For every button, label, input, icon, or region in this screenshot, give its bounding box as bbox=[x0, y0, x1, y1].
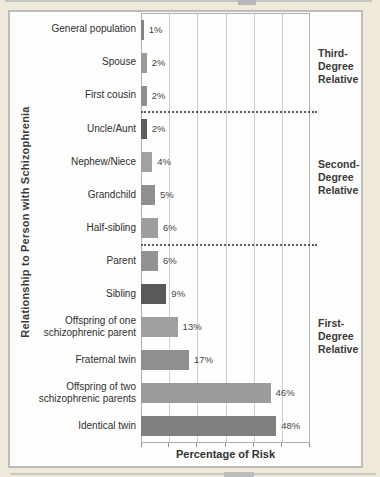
category-label: Identical twin bbox=[4, 410, 136, 442]
scan-artifact-top-line bbox=[5, 0, 372, 2]
scan-artifact-top-tab bbox=[238, 0, 256, 5]
bar-value-label: 13% bbox=[183, 321, 202, 332]
gridline bbox=[282, 14, 283, 442]
bar-value-label: 2% bbox=[152, 123, 166, 134]
bar-value-label: 9% bbox=[171, 288, 185, 299]
bar-value-label: 2% bbox=[152, 57, 166, 68]
bar bbox=[141, 284, 166, 304]
bar bbox=[141, 20, 144, 40]
scan-artifact-bottom-line bbox=[10, 473, 376, 475]
bar bbox=[141, 350, 189, 370]
axis-tick bbox=[309, 443, 310, 447]
bar-value-label: 46% bbox=[276, 387, 295, 398]
bar bbox=[141, 152, 152, 172]
bar bbox=[141, 185, 155, 205]
bar-value-label: 2% bbox=[152, 90, 166, 101]
category-label: Fraternal twin bbox=[4, 344, 136, 376]
axis-tick bbox=[141, 443, 142, 447]
axis-tick bbox=[281, 443, 282, 447]
bar-value-label: 6% bbox=[163, 255, 177, 266]
bar-value-label: 17% bbox=[194, 354, 213, 365]
degree-group-label: Third- Degree Relative bbox=[318, 47, 368, 86]
bar bbox=[141, 53, 147, 73]
axis-tick bbox=[168, 443, 169, 447]
scan-artifact-bottom-tab bbox=[224, 472, 254, 477]
bar bbox=[141, 317, 178, 337]
gridline bbox=[226, 14, 227, 442]
y-axis-title: Relationship to Person with Schizophreni… bbox=[19, 106, 31, 337]
bar bbox=[141, 218, 158, 238]
bar-value-label: 5% bbox=[160, 189, 174, 200]
bar bbox=[141, 416, 276, 436]
bar bbox=[141, 119, 147, 139]
bar-value-label: 4% bbox=[157, 156, 171, 167]
axis-tick bbox=[196, 443, 197, 447]
bar-value-label: 1% bbox=[149, 24, 163, 35]
degree-separator-dotted-line bbox=[141, 244, 317, 246]
axis-tick bbox=[253, 443, 254, 447]
bar bbox=[141, 383, 271, 403]
degree-group-label: First- Degree Relative bbox=[318, 317, 368, 356]
degree-separator-dotted-line bbox=[141, 111, 317, 113]
category-label: Offspring of two schizophrenic parents bbox=[4, 377, 136, 409]
bar bbox=[141, 86, 147, 106]
bar bbox=[141, 251, 158, 271]
category-label: Spouse bbox=[4, 47, 136, 79]
axis-tick bbox=[225, 443, 226, 447]
x-axis-title: Percentage of Risk bbox=[141, 448, 310, 460]
degree-group-label: Second- Degree Relative bbox=[318, 158, 368, 197]
category-label: General population bbox=[4, 14, 136, 46]
gridline bbox=[197, 14, 198, 442]
bar-value-label: 48% bbox=[281, 420, 300, 431]
gridline bbox=[254, 14, 255, 442]
bar-value-label: 6% bbox=[163, 222, 177, 233]
